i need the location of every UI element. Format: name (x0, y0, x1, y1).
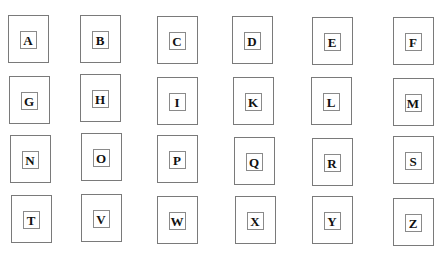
letter-inner-box: T (23, 211, 40, 229)
letter-inner-box: X (247, 212, 264, 230)
letter-inner-box: Y (324, 212, 341, 230)
letter-label: F (409, 36, 417, 49)
letter-label: B (96, 34, 105, 47)
letter-card[interactable]: X (235, 196, 276, 244)
letter-label: T (27, 214, 36, 227)
letter-card[interactable]: V (81, 194, 122, 242)
letter-label: K (248, 96, 258, 109)
letter-inner-box: F (405, 33, 422, 51)
letter-label: Z (409, 217, 418, 230)
letter-inner-box: E (324, 33, 341, 51)
letter-label: W (171, 215, 184, 228)
letter-card[interactable]: C (157, 16, 198, 64)
letter-label: S (409, 155, 416, 168)
letter-card[interactable]: O (81, 133, 122, 181)
letter-label: O (96, 152, 106, 165)
letter-label: M (407, 97, 419, 110)
letter-label: G (24, 95, 34, 108)
letter-inner-box: R (324, 154, 341, 172)
letter-label: D (247, 35, 256, 48)
letter-label: I (174, 96, 179, 109)
letter-card[interactable]: E (312, 17, 353, 65)
letter-label: N (25, 154, 34, 167)
letter-card[interactable]: K (233, 77, 274, 125)
letter-label: A (23, 34, 32, 47)
letter-inner-box: I (169, 93, 186, 111)
letter-card[interactable]: Q (234, 137, 275, 185)
letter-label: V (96, 213, 105, 226)
letter-card[interactable]: M (393, 78, 434, 126)
letter-inner-box: P (169, 151, 186, 169)
letter-inner-box: O (93, 149, 110, 167)
letter-card[interactable]: S (393, 136, 434, 184)
letter-label: R (327, 157, 336, 170)
letter-inner-box: L (323, 93, 340, 111)
letter-inner-box: H (92, 90, 109, 108)
letter-inner-box: M (405, 94, 422, 112)
letter-card[interactable]: R (312, 138, 353, 186)
letter-inner-box: G (21, 92, 38, 110)
letter-inner-box: B (92, 31, 109, 49)
letter-card[interactable]: L (311, 77, 352, 125)
letter-card[interactable]: I (157, 77, 198, 125)
letter-label: P (173, 154, 181, 167)
letter-card[interactable]: T (11, 195, 52, 243)
letter-inner-box: S (405, 152, 422, 170)
letter-inner-box: N (22, 151, 39, 169)
letter-card[interactable]: Y (312, 196, 353, 244)
letter-card[interactable]: N (10, 135, 51, 183)
letter-inner-box: Z (405, 214, 422, 232)
letter-card[interactable]: A (8, 15, 49, 63)
letter-label: C (172, 35, 181, 48)
letter-inner-box: Q (246, 153, 263, 171)
letter-inner-box: V (93, 210, 110, 228)
letter-card-grid: ABCDEFGHIKLMNOPQRSTVWXYZ (0, 0, 441, 255)
letter-card[interactable]: F (393, 17, 434, 65)
letter-inner-box: W (169, 212, 186, 230)
letter-inner-box: K (245, 93, 262, 111)
letter-inner-box: D (244, 32, 261, 50)
letter-card[interactable]: W (157, 196, 198, 244)
letter-card[interactable]: Z (393, 198, 434, 246)
letter-label: E (328, 36, 337, 49)
letter-card[interactable]: G (9, 76, 50, 124)
letter-label: X (250, 215, 259, 228)
letter-inner-box: C (169, 32, 186, 50)
letter-label: H (95, 93, 105, 106)
letter-card[interactable]: D (232, 16, 273, 64)
letter-card[interactable]: B (80, 15, 121, 63)
letter-card[interactable]: H (80, 74, 121, 122)
letter-label: L (327, 96, 336, 109)
letter-label: Q (249, 156, 259, 169)
letter-label: Y (327, 215, 336, 228)
letter-card[interactable]: P (157, 135, 198, 183)
letter-inner-box: A (20, 31, 37, 49)
